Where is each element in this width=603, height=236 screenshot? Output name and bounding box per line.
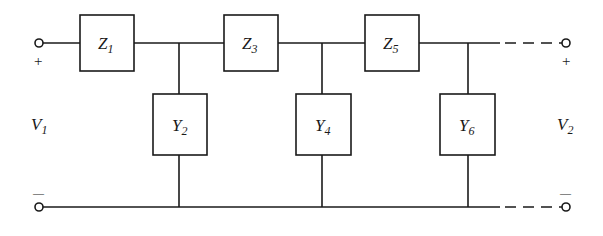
v2-label: V2 — [557, 115, 573, 137]
output-terminal-minus — [562, 203, 570, 211]
input-terminal-minus — [35, 203, 43, 211]
impedance-z3: Z3 — [224, 15, 278, 71]
impedance-z1: Z1 — [80, 15, 134, 71]
admittance-y6: Y6 — [440, 94, 495, 155]
input-terminal-plus — [35, 39, 43, 47]
v1-label: V1 — [31, 115, 47, 137]
input-plus-sign: + — [34, 53, 42, 69]
output-plus-sign: + — [562, 53, 570, 69]
admittance-y4: Y4 — [296, 94, 351, 155]
admittance-y2: Y2 — [153, 94, 207, 155]
output-minus-sign: — — [559, 187, 572, 199]
output-terminal-plus — [562, 39, 570, 47]
impedance-z5: Z5 — [365, 15, 419, 71]
input-minus-sign: — — [32, 187, 45, 199]
ladder-network-diagram: Z1 Z3 Z5 Y2 Y4 Y6 + — + — V1 V2 — [0, 0, 603, 236]
